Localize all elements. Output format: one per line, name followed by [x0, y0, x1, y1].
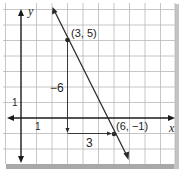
y-axis-label: y — [28, 5, 33, 17]
point-b-label: (6, −1) — [116, 121, 148, 132]
run-label: 3 — [86, 137, 93, 149]
point-3-5 — [65, 38, 70, 43]
y-tick-label: 1 — [12, 98, 18, 108]
point-6-neg1 — [112, 132, 117, 137]
point-a-label: (3, 5) — [71, 28, 97, 39]
coordinate-graph: y x 1 1 (3, 5) (6, −1) −6 3 — [0, 0, 179, 172]
rise-label: −6 — [50, 82, 64, 94]
x-tick-label: 1 — [35, 122, 41, 132]
x-axis-label: x — [169, 122, 174, 134]
